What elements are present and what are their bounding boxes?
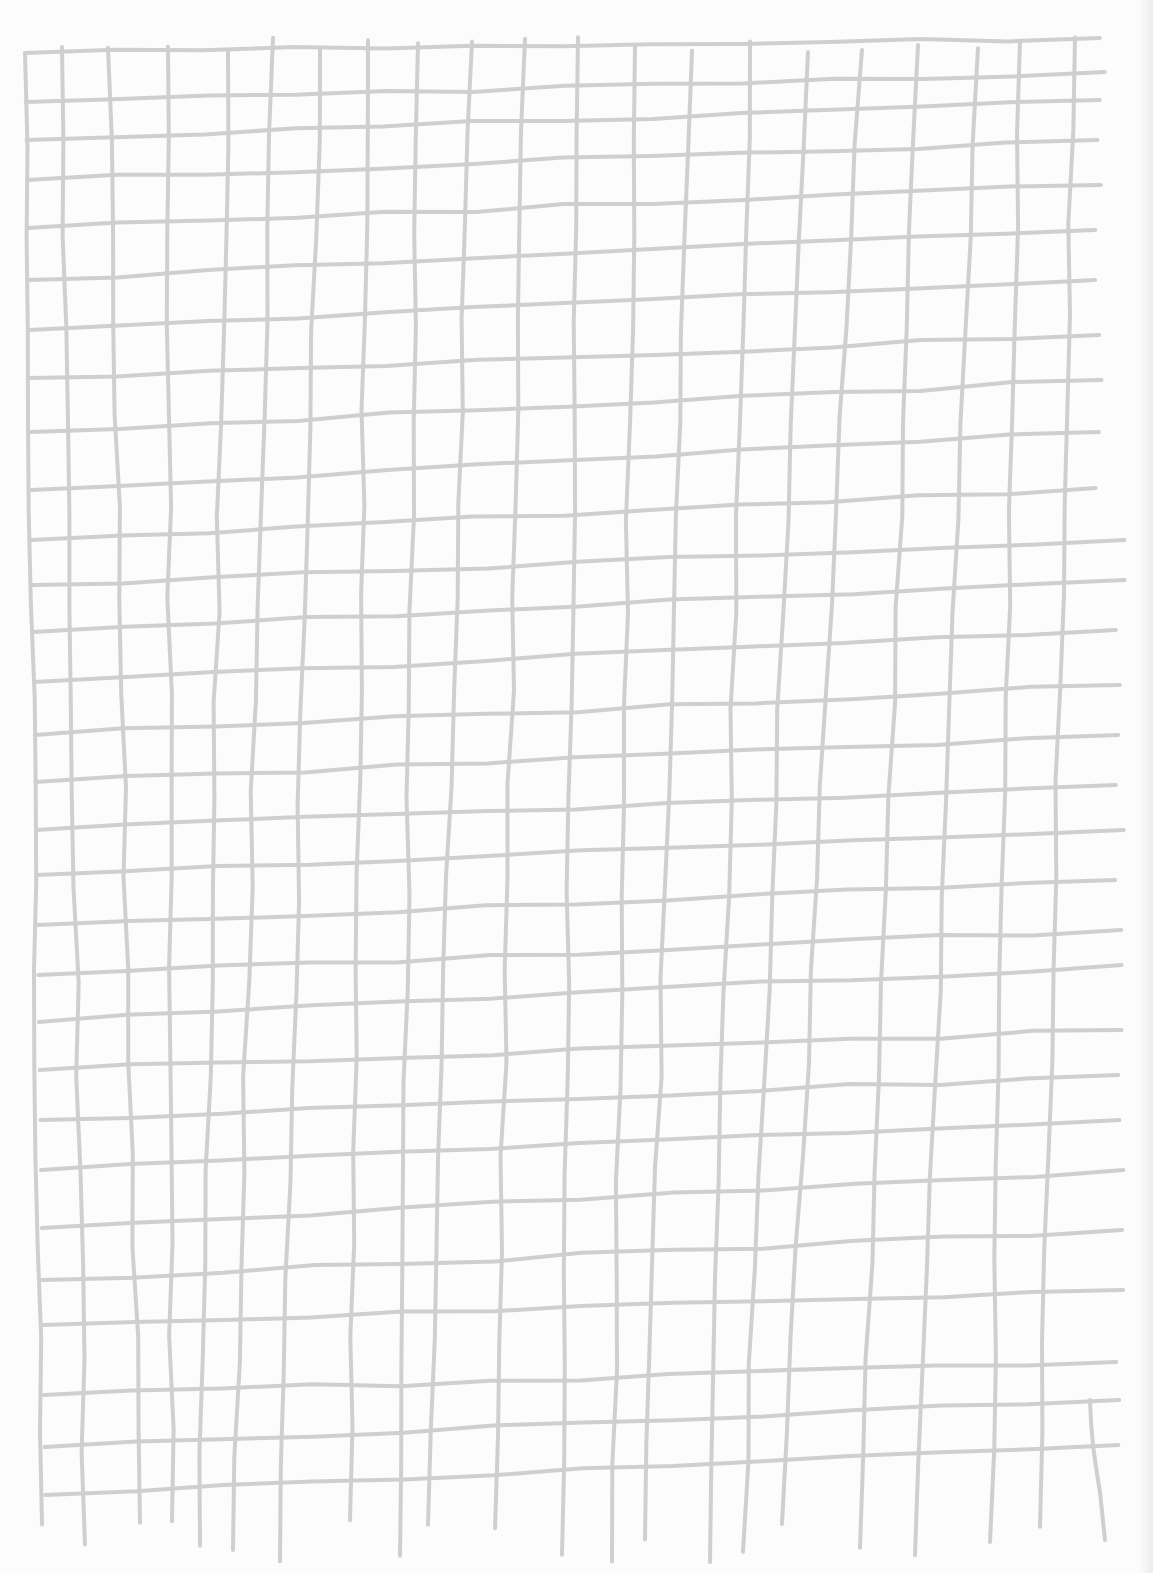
grid-horizontal-line — [31, 380, 1102, 432]
grid-vertical-line — [915, 48, 978, 1555]
paper-edge-shadow — [1139, 0, 1153, 1573]
grid-horizontal-line — [29, 230, 1096, 280]
grid-horizontal-line — [40, 1030, 1122, 1070]
grid-horizontal-line — [33, 540, 1125, 585]
grid-horizontal-line — [31, 432, 1099, 490]
grid-vertical-line — [428, 42, 472, 1525]
grid-horizontal-line — [26, 72, 1105, 102]
grid-vertical-line — [108, 48, 140, 1523]
grid-horizontal-line — [28, 185, 1101, 228]
grid-horizontal-line — [38, 880, 1116, 925]
grid-vertical-line — [1040, 37, 1075, 1526]
grid-vertical-line — [1090, 1400, 1105, 1540]
grid-horizontal-line — [30, 335, 1099, 378]
grid-horizontal-line — [25, 38, 1100, 53]
grid-vertical-line — [62, 47, 85, 1545]
paper-background — [0, 0, 1153, 1573]
grid-horizontal-line — [34, 630, 1116, 682]
grid-vertical-line — [167, 47, 174, 1522]
grid-horizontal-line — [36, 785, 1116, 830]
grid-horizontal-line — [44, 1362, 1116, 1395]
grid-horizontal-line — [45, 1445, 1118, 1495]
grid-horizontal-line — [41, 1120, 1119, 1170]
grid-horizontal-line — [29, 280, 1095, 330]
grid-horizontal-line — [26, 100, 1099, 140]
grid-horizontal-line — [45, 1400, 1120, 1447]
grid-vertical-line — [495, 39, 525, 1528]
hand-drawn-grid — [0, 0, 1153, 1573]
grid-vertical-line — [645, 51, 692, 1540]
grid-horizontal-line — [32, 488, 1096, 540]
grid-vertical-line — [25, 53, 42, 1525]
grid-vertical-line — [562, 37, 578, 1554]
grid-vertical-line — [280, 49, 320, 1562]
grid-horizontal-line — [36, 735, 1119, 782]
grid-vertical-line — [400, 43, 418, 1556]
grid-horizontal-line — [35, 685, 1120, 735]
grid-horizontal-line — [37, 830, 1124, 875]
grid-horizontal-line — [40, 1075, 1118, 1120]
grid-horizontal-line — [38, 930, 1121, 975]
grid-vertical-line — [233, 38, 273, 1550]
grid-horizontal-line — [39, 965, 1122, 1022]
grid-horizontal-line — [27, 140, 1097, 180]
grid-vertical-line — [782, 50, 862, 1524]
grid-horizontal-line — [33, 580, 1124, 632]
